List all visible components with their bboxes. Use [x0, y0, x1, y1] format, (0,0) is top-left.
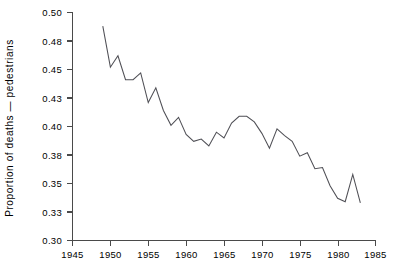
y-axis-ticks [67, 13, 73, 241]
line-chart: Proportion of deaths — pedestrians 0.50 … [0, 0, 395, 270]
y-tick-label-6: 0.45 [42, 64, 62, 75]
x-tick-label-1955: 1955 [137, 249, 159, 260]
x-tick-label-1975: 1975 [289, 249, 311, 260]
y-tick-label-5: 0.43 [42, 93, 62, 104]
y-tick-label-2: 0.35 [42, 178, 62, 189]
x-tick-label-1960: 1960 [175, 249, 197, 260]
y-tick-label-0: 0.30 [42, 235, 62, 246]
x-tick-label-1970: 1970 [251, 249, 273, 260]
y-tick-label-4: 0.40 [42, 121, 62, 132]
y-tick-label-8: 0.50 [42, 7, 62, 18]
y-tick-label-7: 0.48 [42, 36, 62, 47]
data-series-line [103, 26, 361, 203]
x-tick-label-1950: 1950 [99, 249, 121, 260]
chart-figure: Proportion of deaths — pedestrians 0.50 … [0, 0, 395, 270]
x-axis-tick-labels: 1945 1950 1955 1960 1965 1970 1975 1980 … [61, 249, 386, 260]
x-tick-label-1985: 1985 [364, 249, 386, 260]
y-axis-label: Proportion of deaths — pedestrians [4, 39, 15, 217]
x-axis-ticks [73, 241, 376, 247]
y-axis-tick-labels: 0.50 0.48 0.45 0.43 0.40 0.38 0.35 0.33 … [42, 7, 62, 246]
x-tick-label-1980: 1980 [327, 249, 349, 260]
x-tick-label-1945: 1945 [61, 249, 83, 260]
y-tick-label-3: 0.38 [42, 150, 62, 161]
y-tick-label-1: 0.33 [42, 207, 62, 218]
x-tick-label-1965: 1965 [213, 249, 235, 260]
